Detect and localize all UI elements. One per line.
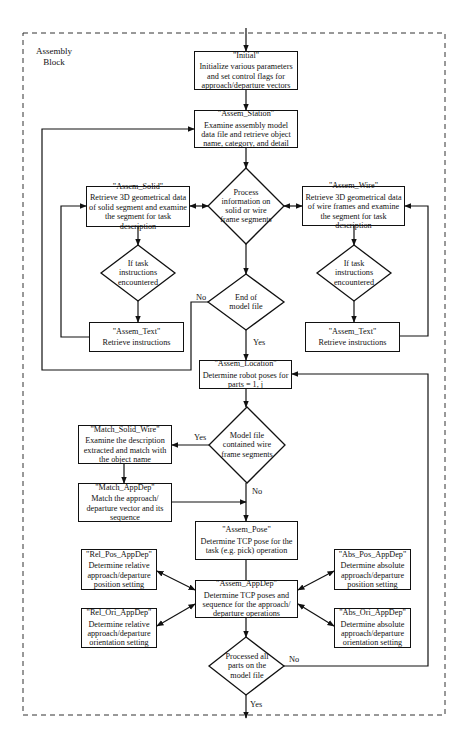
assem-text-left-box: "Assem_Text" Retrieve instructions <box>89 322 184 352</box>
assem-station-desc: Examine assembly model data file and ret… <box>197 121 295 149</box>
assem-wire-desc: Retrieve 3D geometrical data of wire fra… <box>305 193 402 231</box>
model-yes-label: Yes <box>194 433 206 442</box>
assem-pose-title: "Assem_Pose" <box>222 525 271 534</box>
abs-pos-appdep-box: "Abs_Pos_AppDep" Determine absolute appr… <box>334 549 411 590</box>
block-label-line2: Block <box>30 57 78 68</box>
end-no-label: No <box>196 293 206 302</box>
assem-wire-box: "Assem_Wire" Retrieve 3D geometrical dat… <box>302 186 405 226</box>
match-solid-wire-desc: Examine the description extracted and ma… <box>81 436 169 464</box>
processed-yes-label: Yes <box>250 700 262 709</box>
assem-appdep-box: "Assem_AppDep" Determine TCP poses and s… <box>195 580 298 618</box>
processed-decision-label: Processed all parts on the model file <box>217 649 277 683</box>
block-label-line1: Assembly <box>30 46 78 57</box>
assem-solid-desc: Retrieve 3D geometrical data of solid se… <box>89 193 187 231</box>
assembly-block-flowchart: Assembly Block "Initial" Initialize vari… <box>0 0 467 740</box>
task-decision-right-label: If task instructions encountered <box>327 255 381 291</box>
assem-pose-desc: Determine TCP pose for the task (e.g. pi… <box>198 537 295 556</box>
end-decision-label: End of model file <box>226 286 266 318</box>
assembly-block-label: Assembly Block <box>30 46 78 67</box>
abs-ori-appdep-title: "Abs_Ori_AppDep" <box>339 608 406 617</box>
assem-station-title: "Assem_Station" <box>218 109 274 118</box>
processed-no-label: No <box>289 655 299 664</box>
abs-ori-appdep-desc: Determine absolute approach/departure or… <box>337 620 408 648</box>
assem-text-right-title: "Assem_Text" <box>329 327 377 336</box>
assem-location-desc: Determine robot poses for parts = 1, j <box>202 371 289 390</box>
assem-solid-title: "Assem_Solid" <box>113 182 163 191</box>
initial-title: "Initial" <box>233 51 259 60</box>
edge-appdep-abspos <box>298 571 334 590</box>
rel-pos-appdep-desc: Determine relative approach/departure po… <box>84 561 154 589</box>
match-appdep-desc: Match the approach/ departure vector and… <box>81 494 169 522</box>
edge-text-left-loop <box>61 206 89 337</box>
match-appdep-box: "Match_AppDep" Match the approach/ depar… <box>78 483 172 522</box>
abs-ori-appdep-box: "Abs_Ori_AppDep" Determine absolute appr… <box>334 608 411 648</box>
assem-station-box: "Assem_Station" Examine assembly model d… <box>194 110 298 148</box>
assem-appdep-desc: Determine TCP poses and sequence for the… <box>198 591 295 619</box>
end-yes-label: Yes <box>253 338 265 347</box>
edge-appdep-relpos <box>157 571 195 590</box>
rel-ori-appdep-title: "Rel_Ori_AppDep" <box>87 608 152 617</box>
edge-appdep-absori <box>298 604 334 626</box>
initial-box: "Initial" Initialize various parameters … <box>194 51 298 90</box>
assem-wire-title: "Assem_Wire" <box>329 181 378 190</box>
assem-location-box: "Assem_Location" Determine robot poses f… <box>199 360 292 389</box>
assem-text-left-title: "Assem_Text" <box>113 327 161 336</box>
task-decision-left-label: If task instructions encountered <box>111 255 165 291</box>
rel-ori-appdep-box: "Rel_Ori_AppDep" Determine relative appr… <box>81 608 157 648</box>
match-appdep-title: "Match_AppDep" <box>95 483 154 492</box>
rel-pos-appdep-box: "Rel_Pos_AppDep" Determine relative appr… <box>81 549 157 590</box>
assem-solid-box: "Assem_Solid" Retrieve 3D geometrical da… <box>86 186 190 227</box>
assem-appdep-title: "Assem_AppDep" <box>216 579 277 588</box>
assem-text-right-box: "Assem_Text" Retrieve instructions <box>305 322 400 352</box>
rel-pos-appdep-title: "Rel_Pos_AppDep" <box>86 550 152 559</box>
match-solid-wire-title: "Match_Solid_Wire" <box>90 425 159 434</box>
assem-text-right-desc: Retrieve instructions <box>319 338 387 347</box>
rel-ori-appdep-desc: Determine relative approach/departure or… <box>84 620 154 648</box>
abs-pos-appdep-desc: Determine absolute approach/departure po… <box>337 561 408 589</box>
assem-text-left-desc: Retrieve instructions <box>103 338 171 347</box>
abs-pos-appdep-title: "Abs_Pos_AppDep" <box>339 550 407 559</box>
initial-desc: Initialize various parameters and set co… <box>197 62 295 90</box>
match-solid-wire-box: "Match_Solid_Wire" Examine the descripti… <box>78 425 172 464</box>
model-no-label: No <box>252 487 262 496</box>
assem-pose-box: "Assem_Pose" Determine TCP pose for the … <box>195 521 298 560</box>
assem-location-title: "Assem_Location" <box>214 359 276 368</box>
edge-appdep-relori <box>157 604 195 626</box>
model-decision-label: Model file contained wire frame segments <box>218 420 276 470</box>
process-decision-label: Process information on solid or wire fra… <box>219 176 273 236</box>
